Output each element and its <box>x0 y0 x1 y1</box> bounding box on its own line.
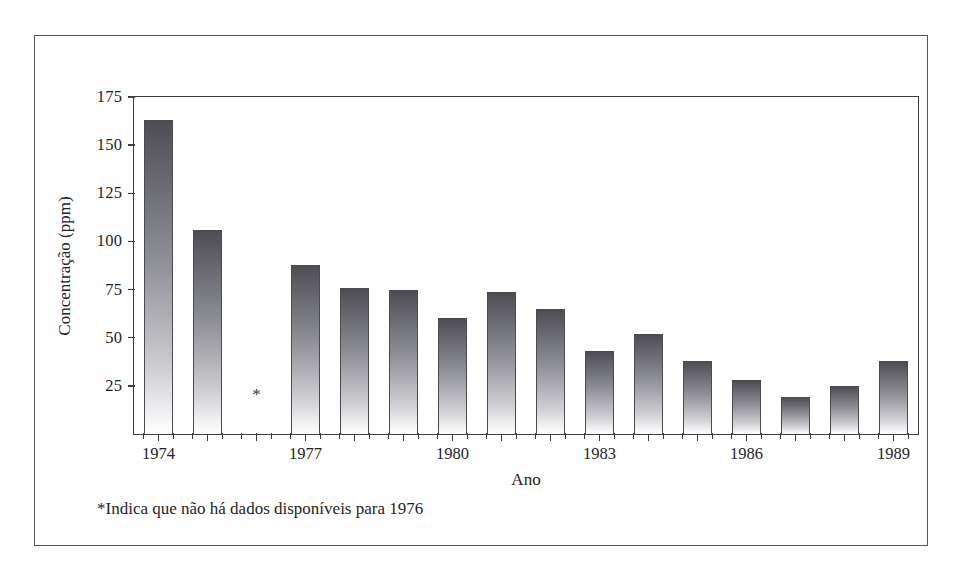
y-axis-title: Concentração (ppm) <box>53 96 77 435</box>
y-axis-tick: 75 <box>105 280 134 300</box>
y-axis-tick: 50 <box>105 328 134 348</box>
y-axis-tick-label: 75 <box>105 280 128 300</box>
bar <box>683 361 712 434</box>
y-axis-tick: 150 <box>97 135 134 155</box>
y-axis-tick-label: 100 <box>97 231 129 251</box>
bar <box>144 120 173 434</box>
y-axis-tick-label: 50 <box>105 328 128 348</box>
y-axis-tick: 25 <box>105 376 134 396</box>
y-axis-tick-mark <box>128 144 135 145</box>
x-axis-tick-label: 1986 <box>730 444 763 464</box>
bar <box>634 334 663 434</box>
y-axis-tick-label: 150 <box>97 135 129 155</box>
bar <box>340 288 369 434</box>
y-axis-tick-mark <box>128 193 135 194</box>
y-axis-tick-mark <box>128 96 135 97</box>
bar <box>193 230 222 434</box>
figure-frame: Concentração (ppm) 255075100125150175 19… <box>34 35 928 546</box>
bar <box>536 309 565 434</box>
x-axis-tick-label: 1977 <box>289 444 322 464</box>
x-axis-title: Ano <box>133 470 919 490</box>
y-axis-tick-label: 175 <box>97 87 129 107</box>
bar <box>438 318 467 434</box>
x-axis-tick-label: 1983 <box>583 444 616 464</box>
y-axis-tick: 100 <box>97 231 134 251</box>
x-axis-tick-mark <box>256 433 257 441</box>
y-axis-tick-label: 125 <box>97 183 129 203</box>
x-axis-tick-mark <box>271 433 272 439</box>
missing-data-footnote: *Indica que não há dados disponíveis par… <box>97 499 423 519</box>
x-axis-tick-mark <box>241 433 242 439</box>
plot-area: 255075100125150175 197419771980198319861… <box>133 96 919 435</box>
x-axis-tick-label: 1980 <box>436 444 469 464</box>
y-axis-tick: 125 <box>97 183 134 203</box>
bar-chart: Concentração (ppm) 255075100125150175 19… <box>35 36 927 545</box>
y-axis-tick: 175 <box>97 87 134 107</box>
bar <box>830 386 859 434</box>
bar <box>291 265 320 434</box>
bar <box>487 292 516 435</box>
bar <box>585 351 614 434</box>
y-axis-tick-mark <box>128 289 135 290</box>
bar <box>732 380 761 434</box>
y-axis-title-label: Concentração (ppm) <box>55 196 75 335</box>
x-axis-tick-label: 1989 <box>877 444 910 464</box>
y-axis-tick-mark <box>128 337 135 338</box>
bar <box>781 397 810 434</box>
y-axis-tick-mark <box>128 241 135 242</box>
y-axis-tick-label: 25 <box>105 376 128 396</box>
missing-data-asterisk: * <box>252 386 261 403</box>
y-axis-tick-mark <box>128 385 135 386</box>
bar <box>389 290 418 434</box>
bar <box>879 361 908 434</box>
x-axis-tick-label: 1974 <box>142 444 175 464</box>
